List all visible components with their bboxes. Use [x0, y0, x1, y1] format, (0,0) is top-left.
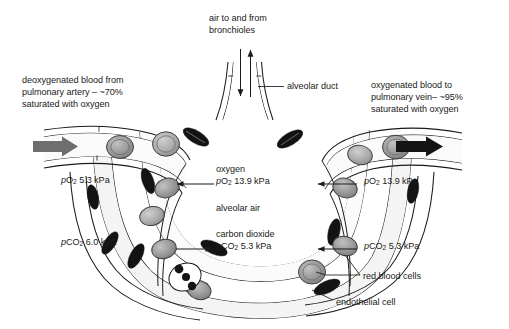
label-pco2-oxygenated-blood: pCO2 5.3 kPa	[364, 240, 419, 252]
label-po2-alveolar-air: pO2 13.9 kPa	[216, 175, 270, 187]
white-blood-cell-nucleus-lobe	[182, 273, 190, 281]
label-po2-deoxygenated-blood: pO2 5.3 kPa	[61, 174, 110, 186]
label-pco2-alveolar-air: pCO2 5.3 kPa	[216, 240, 271, 252]
label-red-blood-cells: red blood cells	[363, 270, 421, 282]
label-po2-oxygenated-blood: pO2 13.9 kPa	[364, 175, 418, 187]
label-endothelial-cell: endothelial cell	[336, 296, 395, 308]
label-pco2-deoxygenated-blood: pCO2 6.0 kPa	[61, 236, 116, 248]
alveolus-diagram	[0, 0, 509, 329]
white-blood-cell-nucleus-lobe	[188, 282, 196, 290]
label-air-to-and-from-bronchioles: air to and from bronchioles	[209, 12, 267, 36]
label-oxygenated-blood: oxygenated blood to pulmonary vein– ~95%…	[371, 79, 463, 115]
white-blood-cell-nucleus-lobe	[175, 265, 184, 274]
label-alveolar-duct: alveolar duct	[287, 80, 338, 92]
label-alveolar-air: alveolar air	[216, 202, 260, 214]
label-carbon-dioxide: carbon dioxide	[216, 228, 274, 240]
label-oxygen: oxygen	[216, 163, 245, 175]
label-deoxygenated-blood: deoxygenated blood from pulmonary artery…	[22, 74, 123, 110]
figure-alveolar-gas-exchange: deoxygenated blood from pulmonary artery…	[0, 0, 509, 329]
